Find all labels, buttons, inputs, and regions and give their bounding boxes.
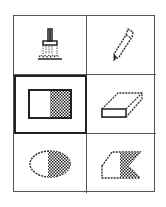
pencil-icon bbox=[107, 27, 137, 63]
tool-pencil[interactable]: Pencil bbox=[87, 16, 156, 75]
tool-paintbrush[interactable]: Paintbrush bbox=[14, 16, 87, 75]
tool-eraser[interactable]: Eraser bbox=[87, 75, 156, 134]
eraser-icon bbox=[100, 89, 144, 119]
filled-rectangle-icon bbox=[28, 89, 72, 119]
paintbrush-icon bbox=[35, 28, 65, 62]
tool-filled-polygon[interactable]: Filled Polygon bbox=[87, 134, 156, 193]
tool-filled-oval[interactable]: Filled Oval bbox=[14, 134, 87, 193]
tool-filled-rectangle[interactable]: Filled Rectangle bbox=[14, 75, 87, 134]
filled-oval-icon bbox=[28, 149, 72, 179]
tool-palette: Paintbrush Pencil Filled Rectangle Erase… bbox=[13, 15, 155, 192]
filled-polygon-icon bbox=[100, 148, 144, 180]
